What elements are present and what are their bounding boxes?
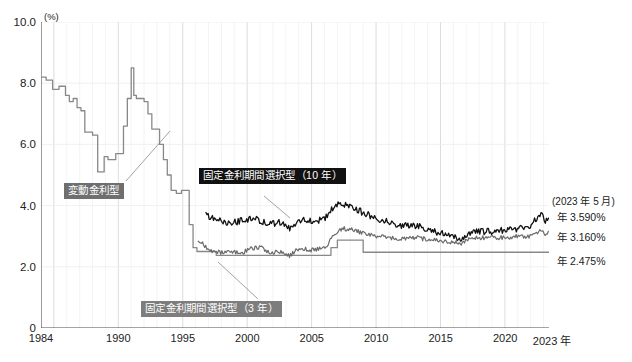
y-tick-2: 2.0 <box>20 261 36 273</box>
y-tick-10: 10.0 <box>14 16 36 28</box>
y-tick-6: 6.0 <box>20 138 36 150</box>
y-axis-unit: (%) <box>44 11 59 22</box>
x-tick-1984: 1984 <box>29 332 53 344</box>
x-tick-2020: 2020 <box>493 332 517 344</box>
value-fixed3-label: 年 3.160% <box>557 229 606 244</box>
value-variable-label: 年 2.475% <box>557 253 606 268</box>
x-tick-1995: 1995 <box>171 332 195 344</box>
x-tick-2005: 2005 <box>300 332 324 344</box>
y-tick-8: 8.0 <box>20 77 36 89</box>
annotation-variable-rate: 変動金利型 <box>64 183 124 199</box>
x-tick-1990: 1990 <box>106 332 130 344</box>
x-tick-2000: 2000 <box>235 332 259 344</box>
x-tick-2023: 2023 年 <box>533 332 572 348</box>
annotation-fixed3: 固定金利期間選択型（3 年） <box>141 301 282 317</box>
y-tick-4: 4.0 <box>20 200 36 212</box>
chart-figure: (%) 10.0 8.0 6.0 4.0 2.0 0 1984 1990 199… <box>0 0 632 362</box>
as-of-date-label: (2023 年 5 月) <box>552 193 615 208</box>
value-fixed10-label: 年 3.590% <box>557 209 606 224</box>
annotation-fixed10: 固定金利期間選択型（10 年） <box>199 168 346 184</box>
x-tick-2010: 2010 <box>364 332 388 344</box>
x-tick-2015: 2015 <box>428 332 452 344</box>
